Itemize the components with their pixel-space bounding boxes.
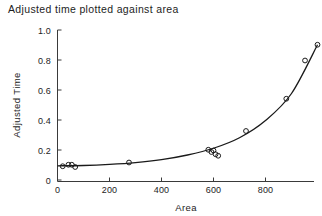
y-tick-label-1.0: 1.0 [38,26,51,36]
x-tick-label-600: 600 [206,185,222,195]
y-axis-title: Adjusted Time [11,72,22,137]
data-point [244,129,249,134]
x-axis-ticks [58,178,266,182]
x-tick-label-400: 400 [154,185,170,195]
y-tick-label-0.2: 0.2 [38,146,51,156]
fitted-curve [58,45,318,166]
data-point [315,42,320,47]
data-point [303,58,308,63]
y-tick-label-0: 0 [46,176,51,186]
y-tick-label-0.8: 0.8 [38,56,51,66]
x-tick-label-0: 0 [55,185,60,195]
scatter-plot: 1.0 0.8 0.6 0.4 0.2 0 Adjusted Time 0 20… [0,0,322,216]
x-tick-label-200: 200 [102,185,118,195]
y-tick-label-0.6: 0.6 [38,86,51,96]
y-tick-label-0.4: 0.4 [38,116,51,126]
chart-figure: Adjusted time plotted against area 1.0 0… [0,0,322,216]
x-tick-label-800: 800 [258,185,274,195]
y-axis-ticks [58,30,62,180]
x-axis-title: Area [175,202,197,213]
